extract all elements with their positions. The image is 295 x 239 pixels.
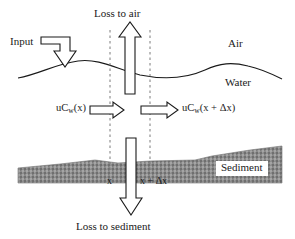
advection-in-argument: (x) [74, 102, 86, 113]
boundary-left-label: x [107, 176, 112, 186]
advection-in-arrow [90, 102, 124, 118]
advection-out-subscript: w [194, 106, 199, 115]
loss-to-air-arrow [119, 22, 141, 94]
boundary-right-label: x + Δx [140, 176, 167, 186]
input-label: Input [10, 36, 33, 47]
advection-out-prefix: uC [182, 102, 194, 113]
advection-in-subscript: w [68, 106, 73, 115]
advection-out-argument: (x + Δx) [200, 102, 235, 113]
water-label: Water [225, 77, 251, 88]
diagram-canvas: Loss to air Input Air Water uCw(x) uCw(x… [0, 0, 295, 239]
advection-out-label: uCw(x + Δx) [182, 103, 235, 114]
loss-to-air-label: Loss to air [94, 8, 140, 19]
loss-to-sediment-label: Loss to sediment [76, 221, 151, 232]
sediment-label: Sediment [216, 161, 268, 176]
advection-in-prefix: uC [56, 102, 68, 113]
advection-out-arrow [141, 102, 178, 118]
advection-in-label: uCw(x) [56, 103, 86, 114]
air-label: Air [228, 38, 243, 49]
diagram-graphics [0, 0, 295, 239]
